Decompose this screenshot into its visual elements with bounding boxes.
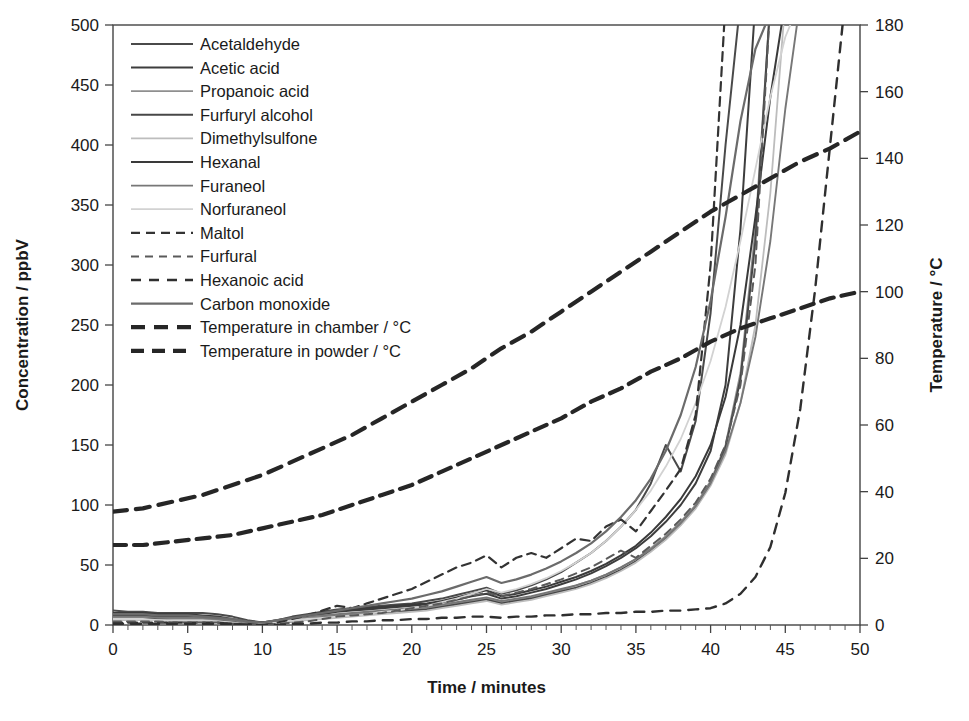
x-tick-label: 5 bbox=[183, 640, 192, 659]
x-tick-label: 20 bbox=[402, 640, 421, 659]
y-left-tick-label: 0 bbox=[90, 616, 99, 635]
x-tick-label: 15 bbox=[328, 640, 347, 659]
y-left-tick-label: 400 bbox=[71, 136, 99, 155]
legend-label: Propanoic acid bbox=[200, 82, 309, 100]
legend-label: Norfuraneol bbox=[200, 200, 286, 218]
x-axis-title: Time / minutes bbox=[427, 678, 546, 697]
y-left-tick-label: 100 bbox=[71, 496, 99, 515]
y-left-tick-label: 200 bbox=[71, 376, 99, 395]
x-tick-label: 45 bbox=[776, 640, 795, 659]
legend-label: Temperature in chamber / °C bbox=[200, 318, 411, 336]
y-right-tick-label: 20 bbox=[875, 549, 894, 568]
x-tick-label: 35 bbox=[626, 640, 645, 659]
legend-label: Acetaldehyde bbox=[200, 35, 300, 53]
x-tick-label: 30 bbox=[552, 640, 571, 659]
legend-label: Furfural bbox=[200, 247, 257, 265]
legend-label: Dimethylsulfone bbox=[200, 129, 317, 147]
y-left-tick-label: 450 bbox=[71, 76, 99, 95]
y-right-tick-label: 160 bbox=[875, 83, 903, 102]
x-tick-label: 10 bbox=[253, 640, 272, 659]
concentration-temperature-chart: 0510152025303540455005010015020025030035… bbox=[0, 0, 969, 700]
legend-label: Hexanoic acid bbox=[200, 271, 304, 289]
y-left-tick-label: 150 bbox=[71, 436, 99, 455]
caption-strip bbox=[0, 707, 969, 721]
y-right-tick-label: 180 bbox=[875, 16, 903, 35]
x-tick-label: 25 bbox=[477, 640, 496, 659]
y-left-tick-label: 250 bbox=[71, 316, 99, 335]
legend-label: Hexanal bbox=[200, 153, 261, 171]
y-left-tick-label: 50 bbox=[80, 556, 99, 575]
y-right-tick-label: 80 bbox=[875, 349, 894, 368]
figure-container: 0510152025303540455005010015020025030035… bbox=[0, 0, 969, 721]
y-left-tick-label: 500 bbox=[71, 16, 99, 35]
legend: AcetaldehydeAcetic acidPropanoic acidFur… bbox=[131, 35, 411, 360]
legend-label: Acetic acid bbox=[200, 59, 280, 77]
y-right-axis-title: Temperature / °C bbox=[927, 258, 946, 393]
y-left-tick-label: 300 bbox=[71, 256, 99, 275]
y-right-tick-label: 100 bbox=[875, 283, 903, 302]
y-right-tick-label: 40 bbox=[875, 483, 894, 502]
x-tick-label: 50 bbox=[851, 640, 870, 659]
y-left-axis-title: Concentration / ppbV bbox=[13, 238, 32, 411]
legend-label: Temperature in powder / °C bbox=[200, 342, 401, 360]
x-tick-label: 0 bbox=[108, 640, 117, 659]
y-right-tick-label: 0 bbox=[875, 616, 884, 635]
x-tick-label: 40 bbox=[701, 640, 720, 659]
legend-label: Maltol bbox=[200, 224, 244, 242]
y-right-tick-label: 120 bbox=[875, 216, 903, 235]
y-left-tick-label: 350 bbox=[71, 196, 99, 215]
legend-label: Furfuryl alcohol bbox=[200, 106, 313, 124]
y-right-tick-label: 60 bbox=[875, 416, 894, 435]
legend-label: Carbon monoxide bbox=[200, 295, 330, 313]
y-right-tick-label: 140 bbox=[875, 149, 903, 168]
legend-label: Furaneol bbox=[200, 177, 265, 195]
